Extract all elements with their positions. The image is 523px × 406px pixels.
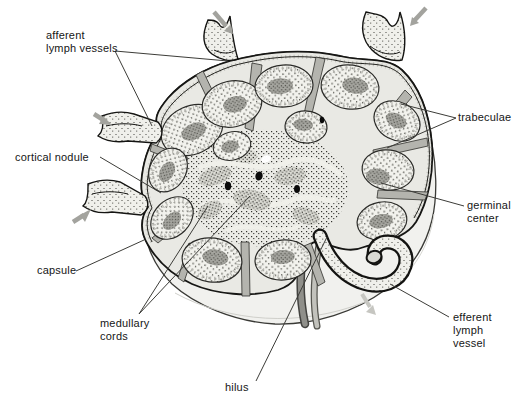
lymph-node-figure: afferent lymph vessels trabeculae cortic… <box>0 0 523 406</box>
leader-efferent <box>390 284 449 317</box>
trabecula <box>241 242 250 296</box>
label-cortical-nodule: cortical nodule <box>15 151 89 164</box>
label-trabeculae: trabeculae <box>458 111 511 124</box>
afferent-vessel-left-lower <box>83 180 148 215</box>
label-germinal-center: germinal center <box>467 199 511 225</box>
label-hilus: hilus <box>225 381 249 394</box>
lymph-node-illustration <box>0 0 523 406</box>
label-medullary-cords: medullary cords <box>100 317 150 343</box>
leader-capsule <box>76 240 144 271</box>
afferent-vessel-left-upper <box>98 112 162 143</box>
label-capsule: capsule <box>37 264 76 277</box>
flow-arrow-icon <box>414 8 426 21</box>
label-efferent-lymph-vessel: efferent lymph vessel <box>453 311 492 350</box>
trabecula <box>377 190 428 200</box>
label-afferent-lymph-vessels: afferent lymph vessels <box>46 29 118 55</box>
